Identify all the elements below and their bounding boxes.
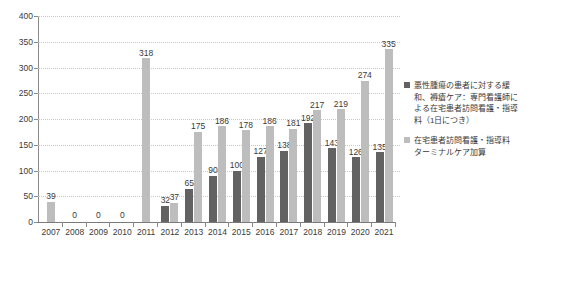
bar[interactable]: 135 (376, 152, 384, 222)
x-tick-label: 2007 (39, 228, 63, 237)
bar[interactable]: 65 (185, 189, 193, 222)
bar[interactable]: 219 (337, 109, 345, 222)
y-tick-mark (34, 222, 38, 223)
bar-value-label: 178 (239, 121, 253, 130)
y-tick-label: 400 (19, 12, 33, 21)
bar-value-label: 217 (310, 101, 324, 110)
bar[interactable]: 143 (328, 148, 336, 222)
bar-group: 192217 (301, 16, 325, 222)
bar-value-label: 274 (358, 71, 372, 80)
bar[interactable]: 37 (170, 203, 178, 222)
x-tick-label: 2011 (134, 228, 158, 237)
bar-group: 138181 (277, 16, 301, 222)
bar-group-bars: 138181 (277, 16, 301, 222)
bar-group-bars: 135335 (372, 16, 396, 222)
legend-item[interactable]: 悪性腫瘍の患者に対する緩和、褥瘡ケア：専門看護師による在宅患者訪問看護・指導料（… (404, 80, 564, 126)
bar-group-bars (87, 16, 111, 222)
y-tick-label: 100 (19, 166, 33, 175)
y-tick-mark (34, 93, 38, 94)
x-tick-label: 2017 (277, 228, 301, 237)
bar[interactable]: 318 (142, 58, 150, 222)
legend-color-swatch-icon (404, 137, 410, 143)
y-tick-mark (34, 171, 38, 172)
bar[interactable]: 178 (242, 130, 250, 222)
bar-value-label: 181 (286, 119, 300, 128)
bar-value-label: 39 (46, 192, 55, 201)
bar-value-label: 186 (215, 117, 229, 126)
bar-categories: 3900031832376517590186100178127186138181… (39, 16, 396, 222)
plot-area: 050100150200250300350400 390003183237651… (38, 16, 396, 254)
bar[interactable]: 186 (266, 126, 274, 222)
bar-value-label: 318 (139, 49, 153, 58)
y-tick-mark (34, 68, 38, 69)
y-tick-label: 150 (19, 141, 33, 150)
bar-group: 39 (39, 16, 63, 222)
bar-group: 126274 (348, 16, 372, 222)
x-axis-labels: 2007200820092010201120122013201420152016… (39, 228, 396, 237)
bar[interactable]: 39 (47, 202, 55, 222)
bar[interactable]: 335 (385, 49, 393, 222)
bar-group-bars: 192217 (301, 16, 325, 222)
x-tick-label: 2016 (253, 228, 277, 237)
bar-group-bars: 90186 (206, 16, 230, 222)
plot-body: 050100150200250300350400 390003183237651… (38, 16, 396, 222)
bar-group-bars: 126274 (348, 16, 372, 222)
x-tick-label: 2020 (348, 228, 372, 237)
bar[interactable]: 138 (280, 151, 288, 222)
bar-group: 3237 (158, 16, 182, 222)
bar-group: 318 (134, 16, 158, 222)
bar[interactable]: 175 (194, 132, 202, 222)
y-tick-label: 0 (28, 218, 33, 227)
legend-item-label: 在宅患者訪問看護・指導料ターミナルケア加算 (414, 135, 510, 158)
bar-value-label: 37 (170, 193, 179, 202)
bar[interactable]: 192 (304, 123, 312, 222)
x-tick-label: 2008 (63, 228, 87, 237)
bar-value-label: 0 (96, 211, 101, 220)
y-tick-mark (34, 145, 38, 146)
bar-group: 65175 (182, 16, 206, 222)
bar-group-bars: 318 (134, 16, 158, 222)
bar-value-label: 0 (120, 211, 125, 220)
y-tick-mark (34, 196, 38, 197)
bar-group: 0 (87, 16, 111, 222)
bar[interactable]: 217 (313, 110, 321, 222)
bar-group-bars: 3237 (158, 16, 182, 222)
bar-group: 135335 (372, 16, 396, 222)
y-tick-mark (34, 42, 38, 43)
x-tick-label: 2010 (110, 228, 134, 237)
bar[interactable]: 126 (352, 157, 360, 222)
x-tick-label: 2019 (325, 228, 349, 237)
y-tick-label: 300 (19, 63, 33, 72)
bar[interactable]: 90 (209, 176, 217, 222)
bar-value-label: 0 (72, 211, 77, 220)
legend-item[interactable]: 在宅患者訪問看護・指導料ターミナルケア加算 (404, 135, 564, 158)
bar-value-label: 65 (184, 179, 193, 188)
bar[interactable]: 274 (361, 81, 369, 222)
x-tick-label: 2018 (301, 228, 325, 237)
x-tick-label: 2015 (229, 228, 253, 237)
bar[interactable]: 127 (257, 157, 265, 222)
x-tick-label: 2021 (372, 228, 396, 237)
bar[interactable]: 32 (161, 206, 169, 222)
bar-group-bars: 127186 (253, 16, 277, 222)
bar[interactable]: 181 (289, 129, 297, 222)
bar-group-bars: 39 (39, 16, 63, 222)
bar-value-label: 219 (334, 100, 348, 109)
y-tick-label: 200 (19, 115, 33, 124)
bar[interactable]: 100 (233, 171, 241, 223)
legend-color-swatch-icon (404, 82, 410, 88)
bar-group-bars (63, 16, 87, 222)
bar-value-label: 175 (191, 122, 205, 131)
bar-group-bars: 100178 (229, 16, 253, 222)
y-tick-mark (34, 119, 38, 120)
bar[interactable]: 186 (218, 126, 226, 222)
y-tick-mark (34, 16, 38, 17)
y-tick-label: 50 (24, 192, 33, 201)
bar-group-bars: 143219 (325, 16, 349, 222)
chart-legend: 悪性腫瘍の患者に対する緩和、褥瘡ケア：専門看護師による在宅患者訪問看護・指導料（… (404, 80, 564, 168)
bar-value-label: 186 (262, 117, 276, 126)
x-tick-label: 2012 (158, 228, 182, 237)
bar-value-label: 335 (381, 40, 395, 49)
chart-figure: 050100150200250300350400 390003183237651… (0, 0, 570, 285)
x-tick-label: 2013 (182, 228, 206, 237)
